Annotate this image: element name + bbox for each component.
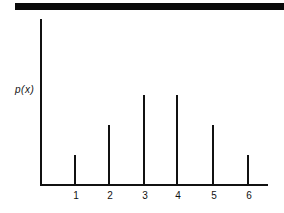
stem-bar: [176, 95, 178, 185]
x-tick-label: 1: [68, 190, 84, 201]
stem-bar: [74, 155, 76, 185]
x-tick-label: 6: [241, 190, 257, 201]
x-tick-label: 5: [206, 190, 222, 201]
x-tick-label: 3: [137, 190, 153, 201]
header-band: [15, 3, 284, 10]
y-axis-label: p(x): [15, 84, 34, 95]
y-axis: [40, 19, 42, 186]
stem-bar: [247, 155, 249, 185]
stem-bar: [212, 125, 214, 185]
x-tick-label: 4: [170, 190, 186, 201]
x-tick-label: 2: [102, 190, 118, 201]
stem-bar: [108, 125, 110, 185]
stem-bar: [143, 95, 145, 185]
